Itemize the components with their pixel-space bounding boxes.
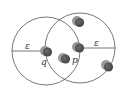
epsilon-right-label: ε (94, 38, 99, 48)
point-q (40, 46, 52, 57)
point-bottom-right (101, 60, 113, 72)
point-top (72, 16, 84, 27)
point-p (58, 53, 70, 64)
point-center-right (72, 42, 84, 53)
q-label: q (41, 57, 47, 67)
neighborhood-diagram: ε ε q p (0, 0, 126, 94)
epsilon-left-label: ε (25, 41, 30, 51)
p-label: p (72, 55, 78, 65)
